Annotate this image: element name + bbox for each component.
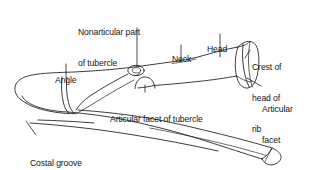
label-head: Head xyxy=(207,24,227,75)
label-nonarticular-part-of-tubercle-line1: Nonarticular part xyxy=(78,27,140,37)
label-costal-groove: Costal groove xyxy=(30,138,82,170)
label-head-line1: Head xyxy=(207,44,227,54)
label-articular-facet-line2: facet xyxy=(262,135,293,145)
label-articular-facet-of-tubercle: Articular facet of tubercle xyxy=(110,94,203,145)
rib-anatomy-figure: Nonarticular part of tubercle Neck Head … xyxy=(0,0,312,170)
label-neck: Neck xyxy=(172,34,191,85)
neck-to-tubercle-ridge xyxy=(138,86,154,89)
label-articular-facet-line1: Articular xyxy=(262,104,293,114)
label-angle: Angle xyxy=(55,55,77,106)
label-nonarticular-part-of-tubercle-line2: of tubercle xyxy=(78,58,140,68)
label-costal-groove-line1: Costal groove xyxy=(30,158,82,168)
label-nonarticular-part-of-tubercle: Nonarticular part of tubercle xyxy=(78,7,140,89)
label-angle-line1: Angle xyxy=(55,75,77,85)
label-neck-line1: Neck xyxy=(172,54,191,64)
label-crest-of-head-of-rib-line1: Crest of xyxy=(252,62,281,72)
rib-neck-inferior-border xyxy=(154,76,237,86)
label-articular-facet: Articular facet xyxy=(262,84,293,166)
label-articular-facet-of-tubercle-line1: Articular facet of tubercle xyxy=(110,114,203,124)
costal-groove-ridge xyxy=(38,120,94,123)
